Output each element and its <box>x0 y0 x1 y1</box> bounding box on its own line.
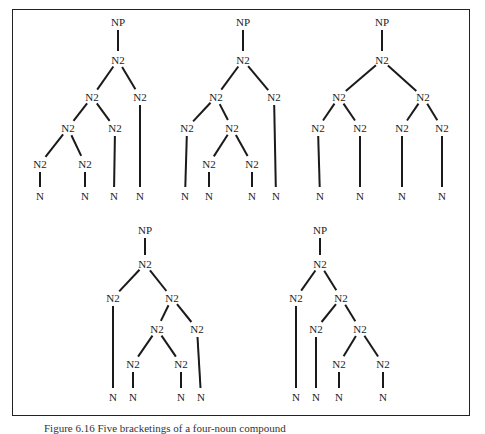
leaf-node: N <box>292 391 300 403</box>
internal-node: N2 <box>332 91 345 103</box>
internal-node: N2 <box>111 54 124 66</box>
leaf-node: N <box>356 190 364 202</box>
leaf-node: N <box>129 391 137 403</box>
tree-edge <box>71 135 81 156</box>
leaf-node: N <box>312 391 320 403</box>
internal-node: N2 <box>106 292 119 304</box>
internal-node: N2 <box>311 122 324 134</box>
internal-node: N2 <box>133 91 146 103</box>
internal-node: N2 <box>416 91 429 103</box>
figure-caption: Figure 6.16 Five bracketings of a four-n… <box>44 422 286 434</box>
internal-node: N2 <box>126 358 139 370</box>
tree-edge <box>236 135 248 156</box>
leaf-node: N <box>379 391 387 403</box>
internal-node: N2 <box>225 122 238 134</box>
tree-2: NPN2N2N2N2N2N2N2NNNN <box>180 16 280 202</box>
internal-node: N2 <box>353 323 366 335</box>
internal-node: N2 <box>150 323 163 335</box>
tree-edge <box>322 304 336 322</box>
root-node: NP <box>138 224 152 236</box>
tree-edge <box>114 136 115 187</box>
leaf-node: N <box>272 190 280 202</box>
tree-edge <box>344 104 356 121</box>
tree-edge <box>364 336 378 357</box>
internal-node: N2 <box>209 91 222 103</box>
internal-node: N2 <box>309 323 322 335</box>
tree-edge <box>301 271 315 291</box>
tree-edge <box>46 134 64 157</box>
internal-node: N2 <box>33 158 46 170</box>
tree-edge <box>323 104 335 121</box>
leaf-node: N <box>398 190 406 202</box>
leaf-node: N <box>136 190 144 202</box>
leaf-node: N <box>248 190 256 202</box>
tree-edge <box>324 271 336 291</box>
tree-edge <box>214 135 228 157</box>
tree-edge <box>318 136 320 187</box>
internal-node: N2 <box>334 292 347 304</box>
tree-edge <box>162 336 176 357</box>
internal-node: N2 <box>61 122 74 134</box>
leaf-node: N <box>177 391 185 403</box>
tree-edge <box>150 270 166 291</box>
leaf-node: N <box>36 190 44 202</box>
internal-node: N2 <box>353 122 366 134</box>
internal-node: N2 <box>202 158 215 170</box>
leaf-node: N <box>197 391 205 403</box>
leaf-node: N <box>205 190 213 202</box>
internal-node: N2 <box>236 54 249 66</box>
tree-edge <box>185 136 187 187</box>
tree-edge <box>427 104 437 121</box>
tree-edge <box>177 304 191 322</box>
leaf-node: N <box>335 391 343 403</box>
tree-edge <box>344 336 356 356</box>
root-node: NP <box>313 224 327 236</box>
tree-edge <box>345 305 355 322</box>
internal-node: N2 <box>85 91 98 103</box>
tree-3: NPN2N2N2N2N2N2N2NNNN <box>311 16 448 202</box>
internal-node: N2 <box>313 258 326 270</box>
tree-edge <box>97 67 113 90</box>
tree-5: NPN2N2N2N2N2N2N2NNNN <box>289 224 389 403</box>
tree-edge <box>248 66 268 90</box>
tree-edge <box>221 67 238 90</box>
root-node: NP <box>375 16 389 28</box>
internal-node: N2 <box>165 292 178 304</box>
internal-node: N2 <box>395 122 408 134</box>
internal-node: N2 <box>376 358 389 370</box>
internal-node: N2 <box>138 258 151 270</box>
tree-edge <box>193 103 210 122</box>
leaf-node: N <box>109 391 117 403</box>
tree-edge <box>407 104 419 121</box>
internal-node: N2 <box>245 158 258 170</box>
internal-node: N2 <box>190 323 203 335</box>
internal-node: N2 <box>108 122 121 134</box>
tree-edge <box>274 105 276 187</box>
leaf-node: N <box>181 190 189 202</box>
internal-node: N2 <box>174 358 187 370</box>
root-node: NP <box>236 16 250 28</box>
internal-node: N2 <box>332 358 345 370</box>
tree-edge <box>119 270 139 292</box>
leaf-node: N <box>316 190 324 202</box>
internal-node: N2 <box>267 91 280 103</box>
tree-edge <box>74 103 88 121</box>
tree-edge <box>122 67 135 89</box>
tree-edge <box>346 65 376 91</box>
tree-edge <box>388 65 416 91</box>
internal-node: N2 <box>289 292 302 304</box>
tree-edge <box>161 305 169 321</box>
leaf-node: N <box>438 190 446 202</box>
tree-1: NPN2N2N2N2N2N2N2NNNN <box>33 16 146 202</box>
internal-node: N2 <box>435 122 448 134</box>
tree-edge <box>138 336 152 357</box>
internal-node: N2 <box>78 158 91 170</box>
internal-node: N2 <box>375 54 388 66</box>
leaf-node: N <box>110 190 118 202</box>
leaf-node: N <box>81 190 89 202</box>
tree-edge <box>97 103 110 120</box>
root-node: NP <box>111 16 125 28</box>
internal-node: N2 <box>180 122 193 134</box>
tree-edge <box>220 104 228 120</box>
